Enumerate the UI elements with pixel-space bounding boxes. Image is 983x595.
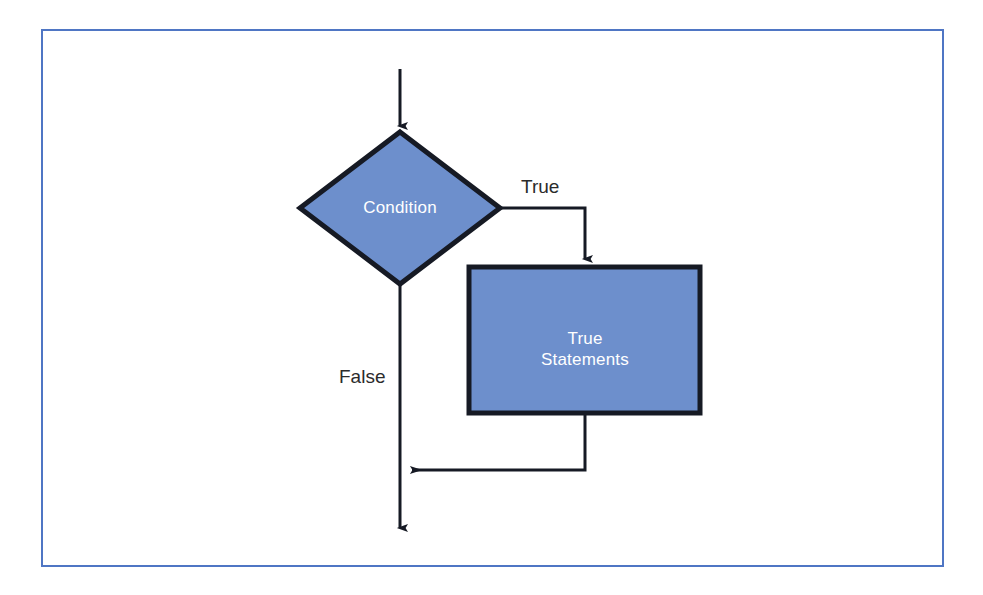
flowchart-canvas: Condition True Statements True False [0,0,983,595]
true-branch-connector [500,208,585,259]
true-statements-rect [469,267,700,413]
return-branch-connector [412,413,585,470]
flowchart-graphics [0,0,983,595]
condition-diamond [300,132,500,284]
